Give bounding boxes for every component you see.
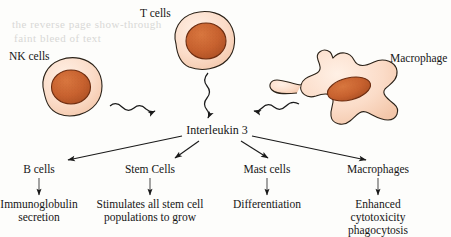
t-cells-label: T cells: [140, 7, 171, 20]
effect-stem-cells: Stimulates all stem cell populations to …: [97, 198, 204, 224]
effect-stem-cells-line-1: Stimulates all stem cell: [97, 198, 204, 211]
effect-b-cells-line-2: secretion: [0, 211, 77, 224]
nk-cells-label: NK cells: [9, 50, 50, 63]
target-label-stem-cells: Stem Cells: [125, 163, 175, 176]
t-cell-graphic: [175, 11, 235, 69]
arrow-to-stem-cells: [175, 141, 199, 158]
nk-cell-wavy-arrow: [110, 104, 155, 112]
effect-macrophages-line-1: Enhanced: [348, 198, 408, 211]
effect-mast-cells: Differentiation: [233, 198, 301, 211]
effect-macrophages-line-3: phagocytosis: [348, 224, 408, 237]
arrow-to-macrophages: [252, 136, 366, 160]
effect-b-cells-line-1: Immunoglobulin: [0, 198, 77, 211]
interleukin-3-diagram: the reverse page show-through faint blee…: [0, 0, 451, 237]
effect-stem-cells-line-2: populations to grow: [97, 211, 204, 224]
macrophage-cell-label: Macrophage: [390, 52, 447, 65]
target-label-b-cells: B cells: [23, 163, 55, 176]
target-label-mast-cells: Mast cells: [244, 163, 291, 176]
arrow-to-mast-cells: [241, 141, 268, 158]
effect-macrophages-line-2: cytotoxicity: [348, 211, 408, 224]
effect-macrophages: Enhanced cytotoxicity phagocytosis: [348, 198, 408, 237]
interleukin-3-node: Interleukin 3: [186, 124, 248, 137]
target-label-macrophages: Macrophages: [347, 163, 409, 176]
effect-mast-cells-line-1: Differentiation: [233, 198, 301, 211]
nk-cell-graphic: [43, 58, 102, 116]
arrow-to-b-cells: [68, 136, 182, 160]
macrophage-wavy-arrow: [254, 102, 299, 111]
effect-b-cells: Immunoglobulin secretion: [0, 198, 77, 224]
t-cell-wavy-arrow: [205, 73, 210, 118]
macrophage-cell-graphic: [270, 50, 398, 124]
